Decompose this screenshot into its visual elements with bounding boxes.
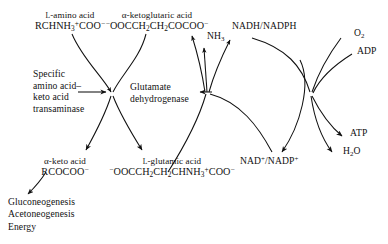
curve-to-water xyxy=(311,96,332,152)
keto-acid-name: α-keto acid xyxy=(41,156,88,166)
label-oxygen: O2 xyxy=(354,28,365,39)
keto-acid-formula: RCOCOO− xyxy=(41,166,88,178)
label-nadh-nadph: NADH/NADPH xyxy=(232,21,296,32)
curve-cross-to-keto-acid xyxy=(86,96,111,150)
transaminase-line-1: Specific xyxy=(33,68,65,79)
transaminase-line-4: transaminase xyxy=(33,103,84,114)
amino-acid-formula: RCHNH3+COO− xyxy=(35,20,105,33)
transaminase-line-2: amino acid– xyxy=(33,80,81,91)
dehydrogenase-line-2: dehydrogenase xyxy=(130,93,189,104)
label-metabolic-fates: Gluconeogenesis Acetoneogenesis Energy xyxy=(8,196,75,233)
transaminase-line-3: keto acid xyxy=(33,91,69,102)
label-amino-acid: L-amino acid RCHNH3+COO− xyxy=(35,10,105,33)
curve-gdh-to-ketoglutarate-out xyxy=(192,36,205,92)
glutamic-acid-name: L-glutamic acid xyxy=(109,156,235,166)
fate-line-2: Acetoneogenesis xyxy=(8,208,75,219)
curve-etc-to-nad xyxy=(282,60,305,152)
dehydrogenase-line-1: Glutamate xyxy=(130,81,171,92)
curve-to-atp xyxy=(312,96,342,136)
label-glutamic-acid: L-glutamic acid −OOCCH2CH2CHNH3+COO− xyxy=(109,156,235,179)
glutamic-acid-formula: −OOCCH2CH2CHNH3+COO− xyxy=(109,166,235,179)
curve-gdh-to-nadh xyxy=(209,40,230,92)
label-adp: ADP xyxy=(357,46,377,57)
label-water: H2O xyxy=(343,146,361,157)
ketoglutaric-acid-name: α-ketoglutaric acid xyxy=(106,10,209,20)
label-glutamate-dehydrogenase: Glutamate dehydrogenase xyxy=(130,81,189,104)
fate-line-3: Energy xyxy=(8,221,36,232)
label-nad-nadp: NAD+/NADP+ xyxy=(240,155,298,167)
label-ketoglutaric-acid: α-ketoglutaric acid −OOCCH2CH2COCOO− xyxy=(106,10,209,33)
label-ammonia: NH3 xyxy=(207,31,225,42)
ketoglutaric-acid-formula: −OOCCH2CH2COCOO− xyxy=(106,20,209,33)
curve-gdh-right-lobe xyxy=(210,94,272,152)
label-keto-acid: α-keto acid RCOCOO− xyxy=(41,156,88,178)
fate-line-1: Gluconeogenesis xyxy=(8,196,75,207)
label-transaminase: Specific amino acid– keto acid transamin… xyxy=(33,68,84,115)
amino-acid-name: L-amino acid xyxy=(35,10,105,20)
curve-nadh-to-etc xyxy=(252,38,310,92)
label-atp: ATP xyxy=(350,128,367,139)
